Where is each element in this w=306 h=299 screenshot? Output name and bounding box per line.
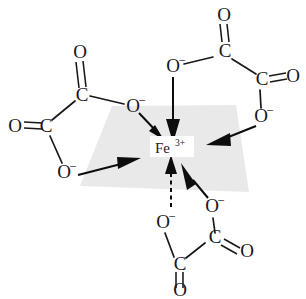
atom-o-topright-carbonyl-right: O — [286, 65, 300, 86]
bond-double-topright-right-b — [270, 79, 287, 82]
atom-o-topright-coordinating-left-charge: – — [178, 53, 185, 65]
bond-topright-cup-to-cright — [232, 59, 256, 74]
atom-o-bottom-carbonyl-lower: O — [173, 279, 187, 299]
atom-o-bottom-carbonyl-right: O — [240, 240, 254, 261]
atom-c-topright-right: C — [256, 68, 269, 89]
structure-canvas: Fe 3+ O C O – O C O – O C O – O C O – O … — [0, 0, 306, 299]
atom-o-topright-coordinating-left: O — [166, 55, 180, 76]
atom-o-left-coordinating-upper: O — [126, 95, 140, 116]
coordination-complex-diagram: Fe 3+ O C O – O C O – O C O – O C O – O … — [0, 0, 306, 299]
bond-bottom-cright-to-clow — [186, 243, 205, 258]
atom-c-topright-upper: C — [219, 40, 232, 61]
bond-double-bottom-right-b — [221, 245, 237, 254]
atom-o-left-coordinating-lower-charge: – — [69, 159, 76, 171]
metal-center-charge: 3+ — [175, 138, 185, 148]
bond-double-bottom-right-a — [224, 239, 240, 248]
atom-o-topright-carbonyl-upper: O — [217, 4, 231, 25]
bond-left-cup-to-clow — [52, 101, 75, 120]
atom-c-left-upper: C — [76, 84, 89, 105]
bond-double-topright-right-a — [269, 73, 286, 76]
atom-c-bottom-lower: C — [174, 253, 187, 274]
metal-center-label: Fe — [155, 140, 170, 156]
atom-o-bottom-coordinating-right-charge: – — [217, 193, 224, 205]
atom-o-bottom-coordinating-left-charge: – — [168, 209, 175, 221]
atom-o-bottom-coordinating-right: O — [205, 195, 219, 216]
bond-left-clow-to-o — [50, 136, 62, 163]
bond-left-cup-to-o — [90, 96, 124, 104]
atom-o-left-coordinating-lower: O — [57, 161, 71, 182]
atom-o-left-coordinating-upper-charge: – — [138, 93, 145, 105]
atom-o-topright-coordinating-right-charge: – — [266, 103, 273, 115]
bond-topright-cup-to-o — [184, 57, 213, 64]
atom-o-left-carbonyl-upper: O — [73, 41, 87, 62]
atom-o-left-carbonyl-lower: O — [8, 115, 22, 136]
atom-c-left-lower: C — [40, 115, 53, 136]
atom-o-topright-coordinating-right: O — [254, 105, 268, 126]
atom-o-bottom-coordinating-left: O — [156, 211, 170, 232]
atom-c-bottom-right: C — [209, 226, 222, 247]
bond-bottom-clow-to-o — [165, 233, 174, 257]
